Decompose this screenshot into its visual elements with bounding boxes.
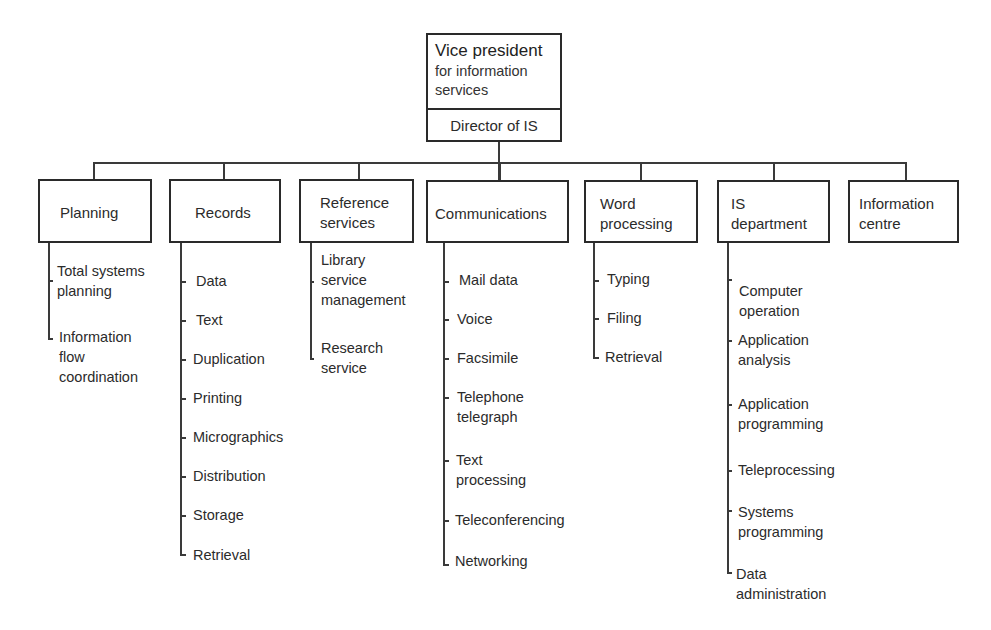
- tick-records-1: [180, 320, 186, 322]
- dept-box-is-department: IS department: [717, 180, 830, 243]
- tick-communications-4: [443, 460, 449, 462]
- tick-communications-3: [443, 397, 449, 399]
- connector-drop-information-centre: [905, 162, 907, 180]
- dept-box-communications: Communications: [426, 180, 569, 243]
- is-department-item: Application analysis: [738, 330, 809, 370]
- is-department-item: Systems programming: [738, 502, 823, 542]
- tree-line-planning: [48, 243, 50, 339]
- tick-word-processing-0: [593, 280, 599, 282]
- tick-planning-1: [48, 338, 53, 340]
- records-item: Duplication: [193, 349, 265, 369]
- word-processing-item: Typing: [607, 269, 650, 289]
- tick-communications-2: [443, 358, 449, 360]
- tick-is-5: [727, 572, 732, 574]
- director-label: Director of IS: [428, 116, 560, 136]
- tick-reference-1: [310, 358, 314, 360]
- records-item: Text: [196, 310, 223, 330]
- tree-line-word-processing: [593, 243, 595, 359]
- dept-label-information-centre: Information centre: [859, 194, 934, 234]
- tick-is-3: [727, 470, 732, 472]
- connector-drop-word-processing: [640, 162, 642, 180]
- connector-drop-records: [223, 162, 225, 180]
- dept-label-word-processing: Word processing: [600, 194, 673, 234]
- connector-drop-is-department: [773, 162, 775, 180]
- is-department-item: Computer operation: [739, 281, 803, 321]
- tick-is-2: [727, 404, 732, 406]
- tick-is-4: [727, 510, 732, 512]
- tree-line-communications: [443, 243, 445, 565]
- vice-president-box: Vice president for information services …: [426, 33, 562, 142]
- vice-president-title: Vice president: [435, 41, 542, 61]
- word-processing-item: Retrieval: [605, 347, 662, 367]
- tick-reference-0: [310, 281, 314, 283]
- reference-item: Research service: [321, 338, 383, 378]
- records-item: Distribution: [193, 466, 266, 486]
- reference-item: Library service management: [321, 250, 406, 310]
- tree-line-is-department: [727, 243, 729, 573]
- dept-label-planning: Planning: [60, 203, 118, 223]
- records-item: Retrieval: [193, 545, 250, 565]
- org-chart: Vice president for information services …: [0, 0, 991, 630]
- dept-box-records: Records: [169, 179, 281, 243]
- tick-is-0: [727, 279, 732, 281]
- tick-records-2: [180, 359, 186, 361]
- connector-drop-planning: [93, 162, 95, 180]
- planning-item: Total systems planning: [57, 261, 145, 301]
- tick-communications-5: [443, 520, 449, 522]
- dept-label-communications: Communications: [435, 204, 547, 224]
- dept-label-is-department: IS department: [731, 194, 807, 234]
- box-divider: [428, 108, 560, 110]
- tick-records-5: [180, 476, 186, 478]
- communications-item: Mail data: [459, 270, 518, 290]
- records-item: Storage: [193, 505, 244, 525]
- dept-box-information-centre: Information centre: [848, 180, 959, 243]
- dept-box-word-processing: Word processing: [584, 180, 698, 243]
- connector-drop-communications: [499, 162, 501, 180]
- records-item: Micrographics: [193, 427, 283, 447]
- dept-label-reference-services: Reference services: [320, 193, 389, 233]
- word-processing-item: Filing: [607, 308, 642, 328]
- tick-communications-0: [443, 281, 449, 283]
- communications-item: Telephone telegraph: [457, 387, 524, 427]
- tree-line-reference: [310, 243, 312, 359]
- dept-box-reference-services: Reference services: [299, 179, 414, 243]
- tick-word-processing-1: [593, 318, 599, 320]
- planning-item: Information flow coordination: [59, 327, 138, 387]
- is-department-item: Teleprocessing: [738, 460, 835, 480]
- records-item: Data: [196, 271, 227, 291]
- communications-item: Teleconferencing: [455, 510, 565, 530]
- communications-item: Networking: [455, 551, 528, 571]
- tick-is-1: [727, 340, 732, 342]
- tick-planning-0: [48, 280, 53, 282]
- dept-label-records: Records: [195, 203, 251, 223]
- communications-item: Facsimile: [457, 348, 518, 368]
- tick-records-6: [180, 515, 186, 517]
- tick-records-3: [180, 398, 186, 400]
- tick-records-7: [180, 554, 186, 556]
- vice-president-subtitle: for information services: [435, 62, 528, 100]
- tick-records-0: [180, 281, 186, 283]
- records-item: Printing: [193, 388, 242, 408]
- connector-drop-reference: [358, 162, 360, 180]
- tick-records-4: [180, 437, 186, 439]
- tick-communications-6: [443, 564, 449, 566]
- is-department-item: Application programming: [738, 394, 823, 434]
- is-department-item: Data administration: [736, 564, 826, 604]
- tick-word-processing-2: [593, 357, 599, 359]
- communications-item: Text processing: [456, 450, 526, 490]
- communications-item: Voice: [457, 309, 492, 329]
- tick-communications-1: [443, 319, 449, 321]
- dept-box-planning: Planning: [38, 179, 152, 243]
